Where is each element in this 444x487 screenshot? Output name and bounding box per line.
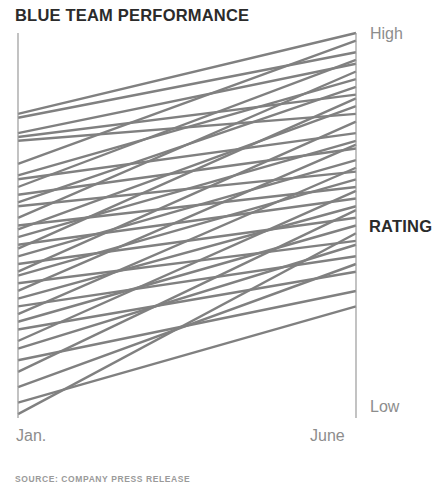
slope-line-group bbox=[18, 33, 356, 414]
axis-tick-june: June bbox=[310, 427, 345, 445]
slope-line bbox=[18, 52, 356, 117]
axis-title-rating: RATING bbox=[369, 217, 432, 236]
axis-tick-low: Low bbox=[370, 398, 399, 416]
slopegraph-figure: BLUE TEAM PERFORMANCE High RATING Low Ja… bbox=[0, 0, 444, 487]
slope-line bbox=[18, 191, 356, 341]
axis-tick-high: High bbox=[370, 25, 403, 43]
source-note: SOURCE: COMPANY PRESS RELEASE bbox=[15, 474, 190, 484]
axis-tick-january: Jan. bbox=[16, 427, 46, 445]
